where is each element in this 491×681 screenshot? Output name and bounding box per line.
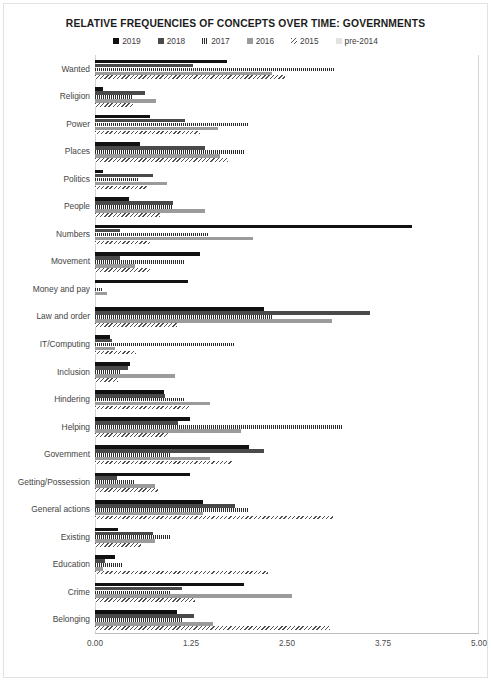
bar-group: Money and pay bbox=[95, 275, 479, 303]
category-label: Education bbox=[53, 559, 90, 569]
bar-2015 bbox=[95, 433, 168, 437]
legend-swatch-icon bbox=[247, 38, 253, 44]
category-label: Money and pay bbox=[33, 284, 90, 294]
x-tick-label: 2.50 bbox=[279, 639, 295, 648]
bar-2015 bbox=[95, 103, 133, 107]
legend-item-2018[interactable]: 2018 bbox=[158, 36, 185, 46]
bar-2015 bbox=[95, 516, 333, 520]
bar-2015 bbox=[95, 406, 190, 410]
bar-2015 bbox=[95, 626, 330, 630]
bar-group: Wanted bbox=[95, 55, 479, 83]
category-label: Existing bbox=[61, 532, 90, 542]
bar-group: Getting/Possession bbox=[95, 468, 479, 496]
category-label: Politics bbox=[63, 174, 90, 184]
category-label: Wanted bbox=[61, 64, 90, 74]
bar-2015 bbox=[95, 268, 150, 272]
bar-group: Power bbox=[95, 110, 479, 138]
category-label: Hindering bbox=[54, 394, 90, 404]
legend-label: 2019 bbox=[122, 36, 140, 46]
category-label: Crime bbox=[68, 587, 90, 597]
bar-group: Existing bbox=[95, 523, 479, 551]
legend-label: 2017 bbox=[211, 36, 229, 46]
bar-2015 bbox=[95, 461, 233, 465]
legend-item-2015[interactable]: 2015 bbox=[291, 36, 318, 46]
bar-group: Law and order bbox=[95, 303, 479, 331]
x-tick-label: 0.00 bbox=[87, 639, 103, 648]
bar-group: Movement bbox=[95, 248, 479, 276]
bar-2015 bbox=[95, 351, 136, 355]
category-label: Getting/Possession bbox=[18, 477, 90, 487]
bar-group: People bbox=[95, 193, 479, 221]
legend-label: 2016 bbox=[256, 36, 274, 46]
legend-swatch-icon bbox=[291, 38, 297, 44]
bar-group: Education bbox=[95, 550, 479, 578]
bar-2015 bbox=[95, 241, 150, 245]
plot-area: WantedReligionPowerPlacesPoliticsPeopleN… bbox=[95, 55, 479, 633]
bar-2016 bbox=[95, 292, 107, 296]
category-label: Power bbox=[66, 119, 90, 129]
x-tick-label: 1.25 bbox=[183, 639, 199, 648]
bar-2015 bbox=[95, 213, 160, 217]
bar-group: Religion bbox=[95, 83, 479, 111]
bar-group: Crime bbox=[95, 578, 479, 606]
x-tick-label: 5.00 bbox=[471, 639, 487, 648]
bar-group: Politics bbox=[95, 165, 479, 193]
bar-group: Belonging bbox=[95, 605, 479, 633]
chart-title: RELATIVE FREQUENCIES OF CONCEPTS OVER TI… bbox=[0, 18, 491, 29]
category-label: Religion bbox=[60, 91, 90, 101]
bar-2015 bbox=[95, 131, 200, 135]
legend-swatch-icon bbox=[202, 38, 208, 44]
bar-2019 bbox=[95, 280, 188, 284]
bar-group: Places bbox=[95, 138, 479, 166]
legend-label: 2018 bbox=[167, 36, 185, 46]
legend-swatch-icon bbox=[158, 38, 164, 44]
category-label: Belonging bbox=[53, 614, 90, 624]
legend-item-2019[interactable]: 2019 bbox=[113, 36, 140, 46]
bar-2015 bbox=[95, 543, 141, 547]
bar-group: Government bbox=[95, 440, 479, 468]
legend-swatch-icon bbox=[336, 38, 342, 44]
category-label: Helping bbox=[62, 422, 90, 432]
category-label: Movement bbox=[51, 256, 90, 266]
x-axis-line bbox=[95, 633, 479, 634]
bar-group: Inclusion bbox=[95, 358, 479, 386]
bar-group: Hindering bbox=[95, 385, 479, 413]
bar-group: IT/Computing bbox=[95, 330, 479, 358]
legend-item-2017[interactable]: 2017 bbox=[202, 36, 229, 46]
bar-2015 bbox=[95, 598, 195, 602]
bar-2017 bbox=[95, 343, 235, 347]
bar-group: General actions bbox=[95, 495, 479, 523]
bar-2015 bbox=[95, 488, 158, 492]
legend-swatch-icon bbox=[113, 38, 119, 44]
bar-2015 bbox=[95, 378, 118, 382]
bar-2015 bbox=[95, 75, 285, 79]
bar-2015 bbox=[95, 158, 228, 162]
chart-legend: 20192018201720162015pre-2014 bbox=[0, 36, 491, 46]
bar-2015 bbox=[95, 186, 148, 190]
category-label: Inclusion bbox=[57, 367, 90, 377]
legend-label: 2015 bbox=[300, 36, 318, 46]
bar-2015 bbox=[95, 323, 177, 327]
category-label: Government bbox=[44, 449, 90, 459]
category-label: General actions bbox=[31, 504, 90, 514]
category-label: Numbers bbox=[56, 229, 90, 239]
category-label: Places bbox=[65, 146, 90, 156]
category-label: IT/Computing bbox=[40, 339, 90, 349]
x-axis-ticks: 0.001.252.503.755.00 bbox=[95, 639, 479, 653]
category-label: Law and order bbox=[36, 311, 90, 321]
bar-group: Numbers bbox=[95, 220, 479, 248]
chart-page: RELATIVE FREQUENCIES OF CONCEPTS OVER TI… bbox=[0, 0, 491, 681]
category-label: People bbox=[64, 201, 90, 211]
legend-label: pre-2014 bbox=[345, 36, 378, 46]
legend-item-2016[interactable]: 2016 bbox=[247, 36, 274, 46]
bar-2019 bbox=[95, 225, 412, 229]
x-tick-label: 3.75 bbox=[375, 639, 391, 648]
bar-group: Helping bbox=[95, 413, 479, 441]
legend-item-pre-2014[interactable]: pre-2014 bbox=[336, 36, 378, 46]
bar-2015 bbox=[95, 571, 268, 575]
